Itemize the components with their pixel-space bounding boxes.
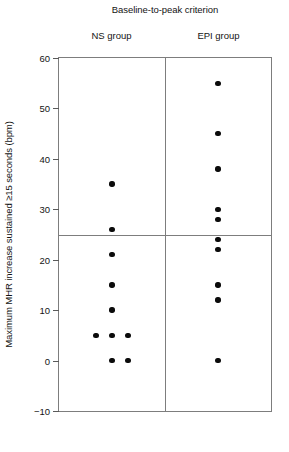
y-axis-tick-label: 10 [39,305,50,316]
data-point [109,333,114,338]
y-axis-title: Maximum MHR increase sustained ≥15 secon… [0,57,16,412]
data-point [215,207,220,212]
y-axis-tick-mark [53,361,59,362]
y-axis-tick-label: 0 [45,355,50,366]
data-point [109,181,114,186]
data-point [109,358,114,363]
data-point [125,333,130,338]
data-point [125,358,130,363]
y-axis-tick-mark [53,108,59,109]
y-axis-tick-label: 50 [39,103,50,114]
data-point [215,237,220,242]
data-point [215,217,220,222]
figure-container: Baseline-to-peak criterion NS group EPI … [0,0,289,452]
data-point [215,166,220,171]
data-point [109,227,114,232]
y-axis-tick-label: 30 [39,204,50,215]
data-point [93,333,98,338]
y-axis-tick-mark [53,159,59,160]
data-point [215,131,220,136]
data-point [215,297,220,302]
chart-title: Baseline-to-peak criterion [58,4,272,15]
data-point [215,81,220,86]
y-axis-tick-mark [53,58,59,59]
data-point [109,307,114,312]
y-axis-tick-mark [53,310,59,311]
y-axis-tick-mark [53,411,59,412]
panel-header-ns-group: NS group [58,30,165,41]
data-point [109,282,114,287]
y-axis-tick-label: −10 [34,406,50,417]
data-point [215,358,220,363]
y-axis-tick-label: 60 [39,53,50,64]
data-point [215,247,220,252]
criterion-reference-line [59,235,271,236]
y-axis-tick-mark [53,260,59,261]
y-axis-tick-label: 20 [39,254,50,265]
y-axis-tick-mark [53,209,59,210]
y-axis-title-label: Maximum MHR increase sustained ≥15 secon… [3,121,14,347]
panel-header-epi-group: EPI group [165,30,272,41]
data-point [215,282,220,287]
data-point [109,252,114,257]
y-axis-tick-label: 40 [39,153,50,164]
plot-area: 6050403020100−10 [58,57,272,412]
